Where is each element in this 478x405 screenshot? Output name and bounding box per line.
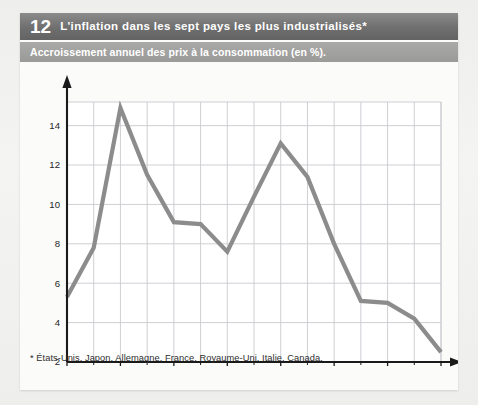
y-axis-tick-label: 8 [55, 238, 60, 249]
figure-footnote: * États-Unis, Japon, Allemagne, France, … [30, 353, 323, 363]
figure-subtitle: Accroissement annuel des prix à la conso… [30, 46, 326, 58]
y-axis-tick-label: 12 [49, 159, 60, 170]
x-axis-tick-label: 1978 [217, 369, 238, 370]
figure-header-band: 12 L'inflation dans les sept pays les pl… [20, 13, 458, 40]
x-axis-tick-label: 1986 [430, 369, 451, 370]
x-axis-arrowhead [450, 357, 458, 366]
figure-card: 12 L'inflation dans les sept pays les pl… [20, 13, 458, 390]
y-axis-tick-label: 10 [49, 199, 60, 210]
x-axis-tick-label: 1982 [323, 369, 344, 370]
y-axis-tick-label: 14 [49, 120, 60, 131]
figure-subtitle-band: Accroissement annuel des prix à la conso… [20, 42, 458, 62]
x-axis-tick-label: 1974 [110, 369, 132, 370]
line-chart: 2468101214197219741976197819801982198419… [20, 62, 458, 370]
y-axis-arrowhead [62, 75, 71, 88]
y-axis-tick-label: 6 [55, 278, 60, 289]
x-axis-tick-label: 1972 [56, 369, 77, 370]
x-axis-tick-label: 1976 [163, 369, 184, 370]
figure-number: 12 [30, 17, 51, 36]
x-axis-tick-label: 1984 [377, 369, 399, 370]
chart-plot-area: 2468101214197219741976197819801982198419… [20, 62, 458, 370]
figure-root: 12 L'inflation dans les sept pays les pl… [0, 0, 478, 405]
figure-title: L'inflation dans les sept pays les plus … [60, 20, 367, 33]
x-axis-tick-label: 1980 [270, 369, 291, 370]
y-axis-tick-label: 4 [55, 317, 61, 328]
